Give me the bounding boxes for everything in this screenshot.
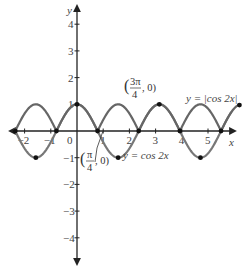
data-point bbox=[13, 129, 18, 134]
x-axis-label: x bbox=[228, 136, 234, 148]
data-point bbox=[237, 103, 242, 108]
y-axis-label: y bbox=[66, 4, 72, 16]
y-tick-label: 3 bbox=[68, 45, 74, 57]
curve-abs-cos-2x bbox=[14, 104, 239, 131]
data-point bbox=[219, 129, 224, 134]
ann2-rest: , 0) bbox=[95, 155, 110, 167]
curve-label-abs-cos: y = |cos 2x| bbox=[185, 92, 238, 104]
x-tick-label: 5 bbox=[205, 134, 211, 146]
data-point bbox=[95, 129, 100, 134]
x-tick-label: 3 bbox=[153, 134, 159, 146]
y-tick-label: −3 bbox=[63, 205, 75, 217]
ann2-denominator: 4 bbox=[87, 162, 93, 173]
y-tick-label: −4 bbox=[63, 232, 75, 244]
chart-canvas: −2−112345−4−3−2−11234 x y 0 y = |cos 2x|… bbox=[0, 0, 246, 270]
annotation-3pi-over-4: ( 3π 4 , 0) bbox=[124, 76, 157, 100]
ann1-denominator: 4 bbox=[132, 89, 138, 100]
curve-label-cos: y = cos 2x bbox=[122, 149, 169, 161]
ann2-numerator: π bbox=[87, 149, 93, 160]
y-tick-label: −1 bbox=[63, 152, 75, 164]
svg-text:(: ( bbox=[124, 77, 129, 95]
data-point bbox=[33, 155, 38, 160]
y-tick-label: −2 bbox=[63, 178, 75, 190]
y-tick-label: 4 bbox=[68, 18, 74, 30]
y-tick-label: 2 bbox=[68, 72, 74, 84]
svg-text:(: ( bbox=[80, 150, 85, 168]
data-point bbox=[116, 155, 121, 160]
data-point bbox=[177, 129, 182, 134]
data-point bbox=[157, 102, 162, 107]
data-point bbox=[198, 155, 203, 160]
data-point bbox=[136, 129, 141, 134]
data-point bbox=[54, 129, 59, 134]
ann1-numerator: 3π bbox=[130, 76, 141, 87]
ann1-rest: , 0) bbox=[142, 82, 157, 94]
origin-label: 0 bbox=[67, 134, 73, 146]
data-point bbox=[75, 102, 80, 107]
